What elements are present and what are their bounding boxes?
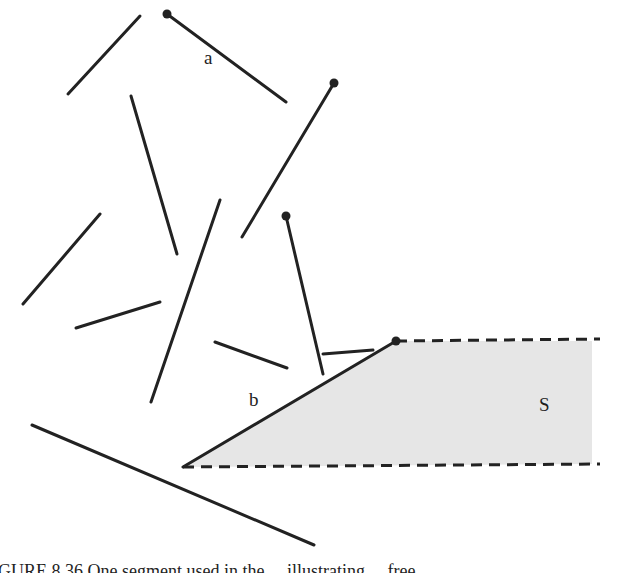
diagram-figure: a b S GURE 8.36 One segment used in the …	[0, 0, 618, 573]
line-seg-6	[76, 302, 160, 328]
line-seg-1	[68, 16, 140, 94]
line-seg-a	[167, 14, 286, 102]
line-seg-7	[151, 200, 220, 402]
line-seg-9	[215, 342, 287, 368]
shaded-region-s	[183, 341, 592, 467]
endpoint-dot-icon	[282, 212, 291, 221]
endpoint-dot-icon	[392, 337, 401, 346]
line-seg-4	[131, 96, 177, 254]
line-seg-8	[286, 216, 323, 374]
label-s: S	[539, 395, 550, 414]
line-seg-10	[323, 350, 373, 354]
diagram-canvas	[0, 0, 618, 573]
label-a: a	[204, 48, 212, 67]
line-seg-5	[23, 214, 100, 304]
endpoint-dots	[163, 10, 401, 346]
figure-caption: GURE 8.36 One segment used in the ... il…	[0, 561, 618, 573]
dashed-boundary-top	[396, 339, 600, 341]
endpoint-dot-icon	[163, 10, 172, 19]
label-b: b	[249, 390, 259, 409]
endpoint-dot-icon	[330, 79, 339, 88]
